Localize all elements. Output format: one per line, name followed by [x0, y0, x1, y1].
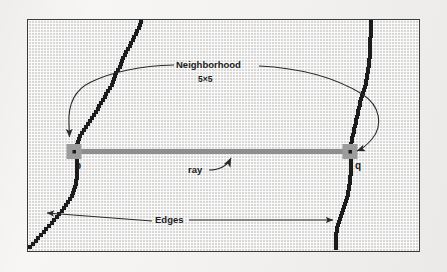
label-neighborhood-size: 5×5 — [198, 75, 212, 84]
label-neighborhood: Neighborhood — [176, 60, 241, 70]
pixel-grid-frame — [27, 19, 420, 252]
label-edges: Edges — [155, 215, 184, 225]
label-ray: ray — [188, 165, 202, 175]
label-point-p: p — [75, 161, 81, 171]
label-point-q: q — [355, 161, 361, 171]
figure-container: Neighborhood 5×5 p q ray Edges — [0, 0, 447, 272]
